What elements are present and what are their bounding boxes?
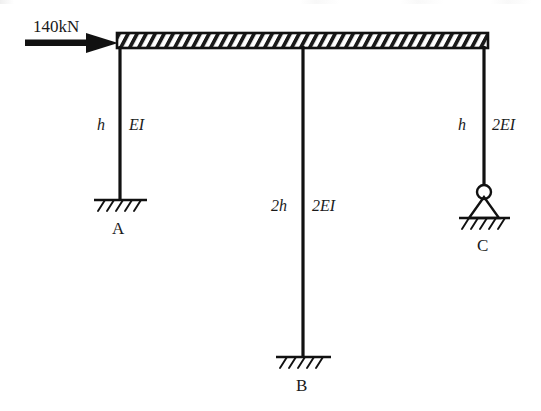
right-column-height-label: h — [458, 117, 466, 133]
support-A-fixed — [94, 200, 147, 211]
middle-column-height-label: 2h — [271, 198, 287, 214]
node-label-a: A — [112, 220, 124, 237]
support-C-pinned — [459, 185, 510, 229]
support-B-fixed — [276, 357, 331, 368]
load-arrow-140kn — [25, 33, 118, 53]
node-label-c: C — [477, 237, 488, 254]
left-column-stiffness-label: EI — [129, 117, 144, 133]
frame-diagram-figure: 140kN h EI 2h 2EI h 2EI A B C — [0, 0, 541, 411]
left-column-height-label: h — [97, 117, 105, 133]
right-column-stiffness-label: 2EI — [492, 117, 515, 133]
load-label-140kn: 140kN — [33, 18, 79, 35]
node-label-b: B — [296, 377, 307, 394]
middle-column-stiffness-label: 2EI — [312, 198, 335, 214]
beam-member — [117, 33, 488, 48]
